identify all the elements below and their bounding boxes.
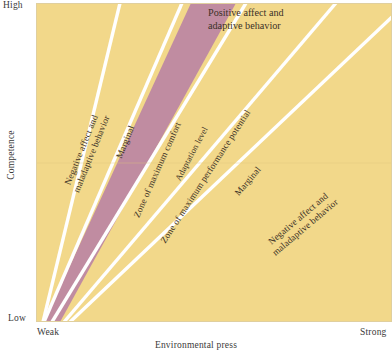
plot-area: Negative affect and maladaptive behavior… [36, 3, 392, 322]
y-axis-low-label: Low [8, 313, 26, 323]
figure-root: Negative affect and maladaptive behavior… [0, 0, 392, 355]
wedge-diagram-svg: Negative affect and maladaptive behavior… [36, 3, 392, 322]
x-axis-title: Environmental press [0, 340, 392, 350]
callout-positive-affect-line1: Positive affect and [208, 7, 284, 18]
callout-positive-affect-line2: adaptive behavior [208, 20, 281, 31]
y-axis-high-label: High [3, 0, 23, 10]
x-axis-strong-label: Strong [360, 327, 387, 337]
x-axis-weak-label: Weak [37, 327, 59, 337]
y-axis-title: Competence [6, 120, 16, 190]
